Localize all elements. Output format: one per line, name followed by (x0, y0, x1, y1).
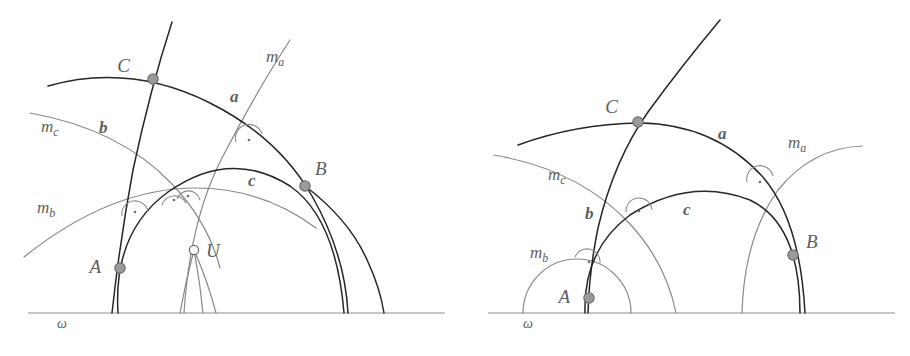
label-point-U-left: U (206, 240, 221, 261)
label-side-a-left: a (230, 87, 239, 106)
point-A-left[interactable] (115, 263, 125, 273)
label-side-b-left: b (99, 118, 108, 137)
point-C-right[interactable] (633, 117, 643, 127)
label-point-C-right: C (605, 96, 618, 117)
label-point-A-right: A (556, 286, 570, 307)
label-side-c-left: c (248, 171, 256, 190)
point-C-left[interactable] (148, 74, 158, 84)
point-A-right[interactable] (584, 293, 594, 303)
label-side-a-right: a (718, 124, 727, 143)
figure-canvas: A B C U a b c ma mb mc ω (0, 0, 910, 356)
label-point-C-left: C (117, 55, 130, 76)
geometry-figure: A B C U a b c ma mb mc ω (0, 0, 910, 356)
label-point-B-left: B (315, 158, 327, 179)
figure-background (0, 0, 910, 356)
point-B-left[interactable] (300, 181, 310, 191)
point-U-left[interactable] (189, 245, 198, 254)
label-point-A-left: A (87, 256, 101, 277)
label-side-b-right: b (585, 204, 594, 223)
point-B-right[interactable] (788, 250, 798, 260)
label-boundary-omega-left: ω (57, 316, 67, 331)
label-side-c-right: c (683, 200, 691, 219)
label-point-B-right: B (806, 231, 818, 252)
label-boundary-omega-right: ω (523, 316, 533, 331)
